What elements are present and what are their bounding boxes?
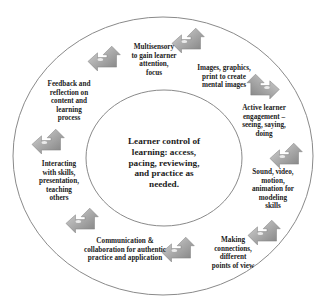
bent-up-arrow-icon bbox=[32, 129, 64, 154]
bent-up-arrow-icon bbox=[172, 28, 204, 53]
bent-up-arrow-icon bbox=[247, 74, 279, 99]
bent-up-arrow-icon bbox=[162, 237, 194, 262]
cycle-diagram: Learner control of learning: access, pac… bbox=[0, 0, 325, 305]
bent-up-arrow-icon bbox=[88, 46, 120, 71]
label-making-connections: Making connections, different points of … bbox=[212, 236, 254, 270]
label-sound-video: Sound, video, motion, animation for mode… bbox=[252, 168, 294, 211]
label-multisensory: Multisensory to gain learner attention, … bbox=[131, 43, 176, 77]
bent-up-arrow-icon bbox=[270, 143, 302, 168]
label-images: Images, graphics, print to create mental… bbox=[197, 64, 251, 90]
bent-up-arrow-icon bbox=[66, 208, 98, 233]
center-label: Learner control of learning: access, pac… bbox=[128, 136, 200, 190]
label-active-engagement: Active learner engagement – seeing, sayi… bbox=[242, 104, 286, 138]
label-feedback: Feedback and reflection on content and l… bbox=[48, 80, 91, 123]
label-interacting: Interacting with skills, presentation, t… bbox=[39, 160, 79, 203]
label-communication: Communication & collaboration for authen… bbox=[84, 237, 166, 263]
